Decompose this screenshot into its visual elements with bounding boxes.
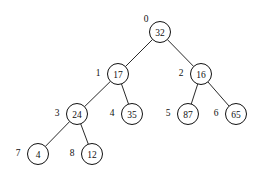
node-value-label: 87 [183, 110, 193, 120]
node-index-label: 0 [144, 14, 149, 24]
tree-edge [81, 124, 89, 144]
tree-edge [85, 81, 111, 106]
node-index-label: 7 [16, 148, 21, 158]
tree-node[interactable]: 354 [110, 104, 143, 125]
node-index-label: 1 [96, 68, 101, 78]
tree-node[interactable]: 162 [179, 64, 212, 85]
node-value-label: 35 [127, 110, 137, 120]
tree-node[interactable]: 128 [70, 144, 103, 165]
tree-edges-group [45, 39, 229, 146]
node-value-label: 17 [113, 70, 123, 80]
tree-node[interactable]: 171 [96, 64, 129, 85]
tree-edge [45, 122, 69, 147]
tree-node[interactable]: 320 [144, 14, 171, 43]
node-index-label: 8 [70, 148, 75, 158]
tree-node[interactable]: 875 [166, 104, 199, 125]
node-index-label: 3 [55, 108, 60, 118]
tree-node[interactable]: 47 [16, 144, 49, 165]
binary-tree-diagram: 32017116224335487565647128 [0, 0, 265, 178]
tree-edge [167, 40, 193, 67]
node-value-label: 4 [36, 150, 41, 160]
node-index-label: 5 [166, 108, 171, 118]
node-value-label: 32 [155, 28, 165, 38]
tree-edge [208, 82, 229, 106]
node-index-label: 6 [214, 108, 219, 118]
node-value-label: 12 [87, 150, 97, 160]
tree-node[interactable]: 656 [214, 104, 247, 125]
tree-canvas: 32017116224335487565647128 [0, 0, 265, 178]
node-value-label: 24 [72, 110, 82, 120]
tree-node[interactable]: 243 [55, 104, 88, 125]
node-value-label: 65 [231, 110, 241, 120]
tree-edge [121, 84, 128, 104]
tree-edge [191, 84, 198, 104]
tree-edge [125, 39, 152, 66]
node-index-label: 2 [179, 68, 184, 78]
node-index-label: 4 [110, 108, 115, 118]
node-value-label: 16 [196, 70, 206, 80]
